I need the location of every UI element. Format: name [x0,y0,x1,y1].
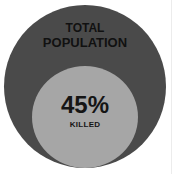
outer-label-line2: POPULATION [4,36,166,49]
killed-label: KILLED [32,121,138,129]
nested-circle-diagram: TOTAL POPULATION 45% KILLED [0,0,173,174]
edge-divider [171,0,172,174]
killed-percentage: 45% [32,93,138,117]
outer-label-line1: TOTAL [4,22,166,34]
